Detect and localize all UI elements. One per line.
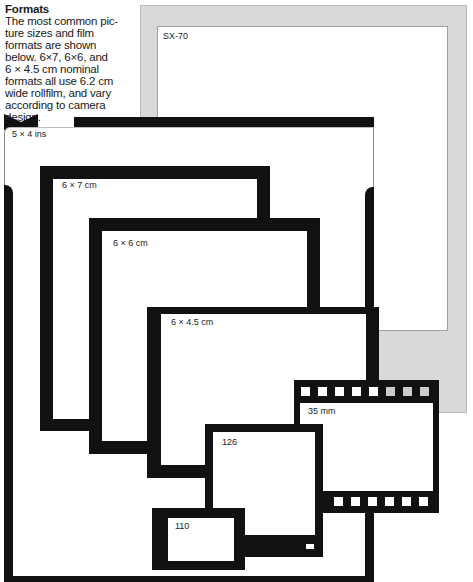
thirtyfive-label: 35 mm — [308, 406, 336, 416]
sx70-label: SX-70 — [163, 31, 188, 41]
five-by-four-top-band — [74, 117, 374, 127]
sprocket-hole — [386, 387, 395, 396]
intro-line: formats all use 6.2 cm — [5, 75, 140, 87]
intro-line: formats are shown — [5, 39, 140, 51]
sprocket-hole — [334, 497, 343, 506]
sprocket-hole — [368, 497, 377, 506]
onehundredten-frame — [152, 508, 245, 570]
sprocket-hole — [385, 497, 394, 506]
five-by-four-left-band — [4, 185, 13, 580]
sprocket-hole — [419, 497, 428, 506]
heading: Formats — [5, 3, 140, 15]
sprocket-hole — [318, 387, 327, 396]
onehundredten-label: 110 — [175, 521, 189, 531]
intro-text: Formats The most common pic- ture sizes … — [5, 3, 140, 123]
sprocket-hole — [402, 497, 411, 506]
sprocket-hole — [420, 387, 429, 396]
intro-line: below. 6×7, 6×6, and — [5, 51, 140, 63]
intro-line: according to camera — [5, 99, 140, 111]
intro-line: The most common pic- — [5, 15, 140, 27]
onetwentysix-label: 126 — [222, 437, 237, 447]
sprocket-hole — [301, 387, 310, 396]
sprocket-hole — [369, 387, 378, 396]
onetwentysix-notch — [306, 544, 314, 549]
sprocket-hole — [335, 387, 344, 396]
intro-line: wide rollfilm, and vary — [5, 87, 140, 99]
sprocket-hole — [352, 387, 361, 396]
sprocket-hole — [403, 387, 412, 396]
six-by-seven-label: 6 × 7 cm — [62, 180, 97, 190]
five-by-four-label: 5 × 4 ins — [12, 129, 46, 139]
intro-line: ture sizes and film — [5, 27, 140, 39]
five-by-four-bottom-band — [4, 576, 374, 582]
six-by-four-five-label: 6 × 4.5 cm — [171, 317, 213, 327]
sprocket-hole — [351, 497, 360, 506]
six-by-six-label: 6 × 6 cm — [113, 238, 148, 248]
thirtyfive-top-sprocket-strip — [294, 380, 439, 403]
intro-line: 6 × 4.5 cm nominal — [5, 63, 140, 75]
